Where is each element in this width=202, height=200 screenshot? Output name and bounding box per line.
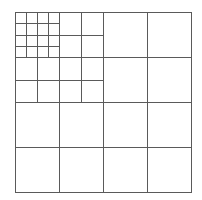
grid-line-horizontal — [15, 102, 104, 103]
grid-line-horizontal — [15, 12, 60, 13]
grid-line-horizontal — [15, 192, 192, 193]
grid-line-horizontal — [15, 46, 60, 47]
grid-line-horizontal — [15, 147, 192, 148]
grid-line-horizontal — [15, 23, 60, 24]
grid-line-horizontal — [15, 57, 60, 58]
subdivided-grid-diagram — [0, 0, 202, 200]
grid-line-horizontal — [15, 35, 60, 36]
grid-line-horizontal — [15, 80, 104, 81]
